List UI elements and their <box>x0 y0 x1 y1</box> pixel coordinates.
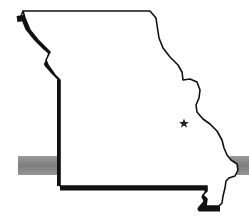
state-outline <box>23 11 238 206</box>
missouri-map <box>0 0 249 224</box>
band-left <box>18 156 60 175</box>
